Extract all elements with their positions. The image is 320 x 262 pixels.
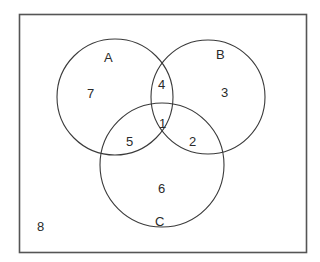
set-c-label: C bbox=[155, 214, 164, 229]
region-a-b: 4 bbox=[158, 77, 165, 92]
region-a-only: 7 bbox=[87, 86, 94, 101]
set-b-circle bbox=[151, 40, 265, 154]
set-a-label: A bbox=[104, 50, 113, 65]
region-b-c: 2 bbox=[189, 134, 196, 149]
region-b-only: 3 bbox=[221, 85, 228, 100]
region-c-only: 6 bbox=[158, 181, 165, 196]
venn-diagram: A B C 7 3 6 4 5 2 1 8 bbox=[0, 0, 320, 262]
region-a-c: 5 bbox=[126, 134, 133, 149]
region-a-b-c: 1 bbox=[159, 116, 166, 131]
set-a-circle bbox=[57, 39, 173, 155]
region-outside: 8 bbox=[37, 219, 44, 234]
set-b-label: B bbox=[216, 47, 225, 62]
